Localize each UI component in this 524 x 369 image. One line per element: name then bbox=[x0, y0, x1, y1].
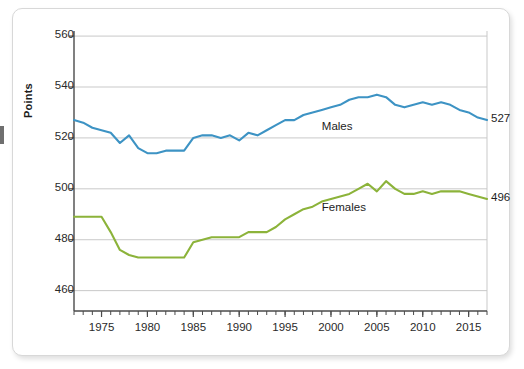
y-axis-tick-label: 560 bbox=[36, 28, 74, 40]
series-line-females bbox=[74, 181, 487, 257]
x-axis-tick-label: 1980 bbox=[127, 321, 167, 333]
y-axis-tick-label: 540 bbox=[36, 79, 74, 91]
y-axis-tick-label: 460 bbox=[36, 283, 74, 295]
x-axis-tick-label: 1985 bbox=[173, 321, 213, 333]
x-axis-tick-label: 2015 bbox=[449, 321, 489, 333]
y-axis-tick-label: 500 bbox=[36, 181, 74, 193]
end-value-males: 527 bbox=[491, 112, 510, 124]
x-axis-tick-label: 1975 bbox=[82, 321, 122, 333]
x-axis-tick-label: 1990 bbox=[219, 321, 259, 333]
series-line-males bbox=[74, 95, 487, 154]
y-axis-title: Points bbox=[22, 83, 34, 118]
y-axis-tick-label: 480 bbox=[36, 232, 74, 244]
x-axis-tick-label: 2000 bbox=[311, 321, 351, 333]
end-value-females: 496 bbox=[491, 191, 510, 203]
chart-svg bbox=[0, 0, 524, 369]
x-axis-tick-label: 1995 bbox=[265, 321, 305, 333]
series-annotation-males: Males bbox=[322, 120, 353, 132]
x-axis-tick-label: 2010 bbox=[403, 321, 443, 333]
line-chart: 4604805005205405601975198019851990199520… bbox=[0, 0, 524, 369]
y-axis-tick-label: 520 bbox=[36, 130, 74, 142]
x-axis-tick-label: 2005 bbox=[357, 321, 397, 333]
series-annotation-females: Females bbox=[322, 201, 366, 213]
